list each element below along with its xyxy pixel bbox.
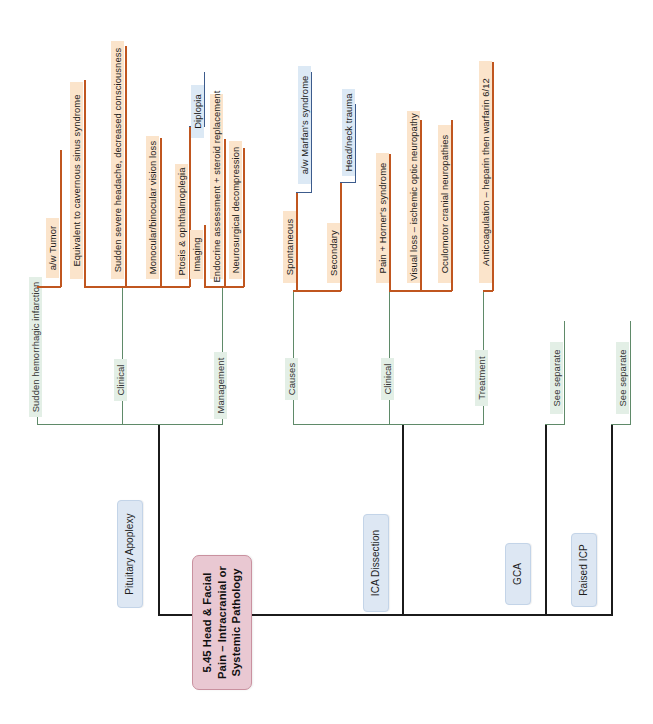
green-spine-ica [293, 424, 483, 425]
trunk-stem-pituitary [158, 424, 160, 616]
orange-spine-sudden-infarction [37, 286, 61, 288]
branch-causes[interactable]: Causes [285, 358, 298, 400]
green-riser-raisedicp-see-separate [630, 321, 631, 425]
green-riser-gca-see-separate [564, 321, 565, 425]
orange-riser-aw-tumor [60, 150, 62, 287]
blue-riser-marfan [311, 72, 312, 193]
topic-pituitary-apoplexy[interactable]: Pituitary Apoplexy [117, 500, 143, 608]
leaf-secondary[interactable]: Secondary [327, 223, 340, 283]
leaf-oculomotor-cranial-neuropathies[interactable]: Oculomotor cranial neuropathies [438, 125, 451, 283]
orange-riser-visual-loss [420, 120, 422, 291]
leaf-sudden-severe-headache[interactable]: Sudden severe headache, decreased consci… [111, 41, 124, 279]
leaf-monocular-binocular-vision-loss[interactable]: Monocular/binocular vision loss [146, 136, 159, 279]
green-spine-pituitary [37, 424, 222, 425]
trunk-stem-gca [545, 424, 547, 616]
green-riser-clinical [122, 286, 123, 425]
blue-spine-secondary [340, 182, 356, 183]
root-node[interactable]: 5.45 Head & Facial Pain – Intracranial o… [192, 555, 252, 690]
leaf-pain-horner-syndrome[interactable]: Pain + Horner's syndrome [376, 153, 389, 283]
orange-riser-anticoagulation [492, 62, 494, 291]
orange-spine-causes [293, 290, 341, 292]
leaf-visual-loss-ischemic-optic-neuropathy[interactable]: Visual loss – ischemic optic neuropathy [407, 111, 420, 283]
topic-gca[interactable]: GCA [505, 543, 531, 605]
mindmap-canvas: 5.45 Head & Facial Pain – Intracranial o… [0, 0, 653, 724]
blue-spine-spontaneous [296, 192, 312, 193]
topic-ica-dissection[interactable]: ICA Dissection [363, 514, 389, 612]
orange-riser-spontaneous [296, 192, 298, 291]
orange-riser-oculomotor [451, 120, 453, 291]
topic-raised-icp[interactable]: Raised ICP [571, 533, 597, 607]
orange-riser-severe-headache [125, 46, 127, 287]
orange-riser-neurosurgical [243, 148, 245, 287]
leaf-head-neck-trauma[interactable]: Head/neck trauma [342, 89, 355, 176]
green-spine-gca [545, 424, 565, 425]
leaf-endocrine-assessment[interactable]: Endocrine assessment + steroid replaceme… [210, 94, 223, 279]
orange-riser-vision-loss [160, 138, 162, 287]
orange-riser-pain-horner [389, 154, 391, 291]
branch-clinical-ica[interactable]: Clinical [381, 358, 394, 400]
leaf-spontaneous[interactable]: Spontaneous [283, 211, 296, 283]
leaf-neurosurgical-decompression[interactable]: Neurosurgical decompression [229, 141, 242, 279]
orange-riser-cavernous-sinus [84, 80, 86, 287]
leaf-aw-tumor[interactable]: a/w Tumor [46, 218, 59, 278]
leaf-aw-marfan-syndrome[interactable]: a/w Marfan's syndrome [298, 66, 311, 184]
leaf-cavernous-sinus-syndrome[interactable]: Equivalent to cavernous sinus syndrome [70, 82, 83, 279]
blue-riser-diplopia [204, 72, 205, 127]
leaf-anticoagulation[interactable]: Anticoagulation – heparin then warfarin … [479, 61, 492, 283]
branch-management-pituitary[interactable]: Management [214, 352, 227, 419]
leaf-diplopia[interactable]: Diplopia [191, 85, 204, 138]
orange-spine-clinical-pituitary [84, 286, 190, 288]
leaf-ptosis-ophthalmoplegia[interactable]: Ptosis & ophthalmoplegia [175, 164, 188, 279]
green-spine-raisedicp [611, 424, 631, 425]
trunk-stem-ica [402, 424, 404, 616]
branch-sudden-hemorrhagic-infarction[interactable]: Sudden hemorrhagic infarction [29, 277, 42, 417]
branch-clinical-pituitary[interactable]: Clinical [114, 359, 127, 401]
leaf-imaging[interactable]: Imaging [190, 230, 203, 279]
blue-riser-head-neck-trauma [355, 104, 356, 183]
branch-see-separate-raisedicp[interactable]: See separate [616, 342, 629, 414]
branch-see-separate-gca[interactable]: See separate [550, 342, 563, 414]
orange-riser-imaging [204, 225, 206, 287]
orange-riser-endocrine [224, 139, 226, 287]
branch-treatment[interactable]: Treatment [475, 350, 488, 406]
trunk-stem-raisedicp [611, 424, 613, 616]
orange-riser-secondary [340, 182, 342, 291]
